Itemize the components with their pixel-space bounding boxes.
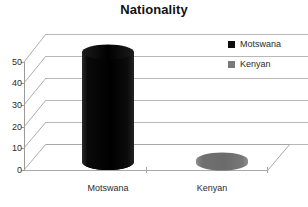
xtick-label-kenyan: Kenyan xyxy=(162,183,262,193)
ytick-label-0: 0 xyxy=(0,165,22,175)
plot-area xyxy=(0,0,308,207)
legend-item-kenyan[interactable]: Kenyan xyxy=(228,54,304,74)
ytick-label-30: 30 xyxy=(0,100,22,110)
legend-item-motswana[interactable]: Motswana xyxy=(228,34,304,54)
ytick-label-40: 40 xyxy=(0,78,22,88)
xtick-label-motswana: Motswana xyxy=(58,183,158,193)
chart-legend: Motswana Kenyan xyxy=(228,34,304,74)
ytick-label-50: 50 xyxy=(0,57,22,67)
ytick-label-10: 10 xyxy=(0,143,22,153)
nationality-chart: Nationality xyxy=(0,0,308,207)
legend-swatch-kenyan-icon xyxy=(228,61,235,68)
ytick-label-20: 20 xyxy=(0,122,22,132)
bar-motswana[interactable] xyxy=(82,45,134,171)
legend-swatch-motswana-icon xyxy=(228,41,235,48)
legend-label-motswana: Motswana xyxy=(240,39,281,49)
bar-kenyan[interactable] xyxy=(196,153,248,171)
depth-connectors xyxy=(24,34,46,170)
floor-plane xyxy=(24,144,290,173)
legend-label-kenyan: Kenyan xyxy=(240,59,271,69)
